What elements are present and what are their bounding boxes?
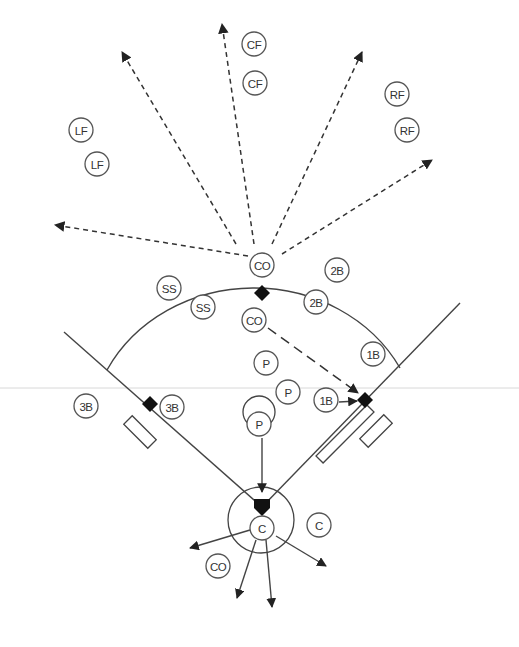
player-label: LF: [75, 125, 88, 137]
fly-ball-arrow: [122, 52, 236, 244]
throw-arrow: [266, 540, 272, 607]
player-label: 1B: [319, 395, 333, 407]
player-marker-lf: LF: [85, 152, 109, 176]
throw-arrow: [276, 536, 326, 566]
right-foul-line: [262, 303, 460, 507]
player-label: SS: [196, 302, 211, 314]
player-label: CO: [254, 260, 271, 272]
player-label: 2B: [309, 297, 323, 309]
player-label: 3B: [165, 402, 179, 414]
home-plate: [254, 499, 270, 516]
throw-arrow: [237, 540, 256, 598]
player-label: LF: [91, 159, 104, 171]
player-marker-p: P: [247, 412, 271, 436]
player-marker-p: P: [276, 380, 300, 404]
player-marker-c: C: [250, 516, 274, 540]
player-marker-cf: CF: [242, 32, 266, 56]
player-label: RF: [390, 89, 405, 101]
baseball-positioning-diagram: LFLFCFCFRFRFCOCOSSSS2B2B1B1B3B3BPPPCCCO: [0, 0, 519, 647]
player-label: 1B: [366, 349, 380, 361]
player-label: P: [255, 419, 263, 431]
player-marker-ss: SS: [157, 276, 181, 300]
player-marker-1b: 1B: [361, 342, 385, 366]
player-label: P: [284, 387, 292, 399]
fly-ball-arrow: [272, 52, 362, 244]
bases: [142, 285, 373, 412]
player-marker-co: CO: [250, 253, 274, 277]
player-markers: LFLFCFCFRFRFCOCOSSSS2B2B1B1B3B3BPPPCCCO: [69, 32, 419, 578]
player-marker-co: CO: [206, 554, 230, 578]
third-base: [142, 396, 158, 412]
fly-ball-arrows: [55, 24, 432, 256]
player-marker-1b: 1B: [314, 388, 338, 412]
player-label: SS: [162, 283, 177, 295]
player-label: CF: [247, 39, 262, 51]
player-marker-2b: 2B: [304, 290, 328, 314]
player-marker-lf: LF: [69, 118, 93, 142]
player-marker-co: CO: [242, 308, 266, 332]
player-label: CO: [210, 561, 227, 573]
player-label: C: [258, 523, 266, 535]
player-label: CF: [248, 78, 263, 90]
player-label: 3B: [79, 401, 93, 413]
player-marker-c: C: [307, 513, 331, 537]
player-marker-2b: 2B: [325, 258, 349, 282]
fly-ball-arrow: [282, 160, 432, 254]
player-label: CO: [246, 315, 263, 327]
player-marker-p: P: [254, 351, 278, 375]
player-marker-ss: SS: [191, 295, 215, 319]
player-marker-3b: 3B: [74, 394, 98, 418]
player-label: 2B: [330, 265, 344, 277]
player-marker-rf: RF: [385, 82, 409, 106]
throw-arrow: [339, 401, 357, 402]
player-label: P: [262, 358, 270, 370]
left-foul-line: [64, 332, 262, 507]
third-base-coach-box: [124, 416, 157, 449]
player-marker-3b: 3B: [160, 395, 184, 419]
player-marker-rf: RF: [395, 118, 419, 142]
fly-ball-arrow: [222, 24, 254, 244]
player-label: RF: [400, 125, 415, 137]
throw-arrow: [190, 530, 250, 548]
player-marker-cf: CF: [243, 71, 267, 95]
player-label: C: [315, 520, 323, 532]
fly-ball-arrow: [55, 225, 248, 256]
